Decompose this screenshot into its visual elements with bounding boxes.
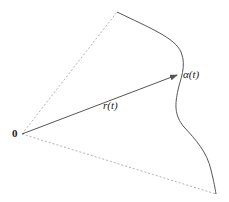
origin-label: 0	[12, 127, 18, 139]
dashed-line-bottom	[22, 134, 216, 194]
diagram: 0 r(t) α(t)	[0, 0, 229, 202]
vector-label: r(t)	[103, 99, 118, 111]
curve-point-label: α(t)	[183, 68, 199, 80]
curve-alpha	[117, 12, 216, 194]
